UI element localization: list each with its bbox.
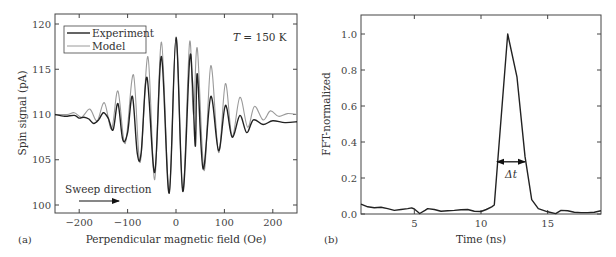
panel-label-b: (b) <box>324 234 338 245</box>
figure: 100105110115120 −200−1000100200 Experime… <box>0 0 616 257</box>
y-tick-label: 105 <box>32 154 51 165</box>
y-axis-label-a: Spin signal (pA) <box>16 70 28 155</box>
legend-label-experiment: Experiment <box>92 27 155 39</box>
plot-series-b <box>361 34 601 214</box>
temperature-value: = 150 K <box>240 31 287 43</box>
y-tick-label: 115 <box>32 64 51 75</box>
x-tick-label: 10 <box>475 218 488 229</box>
chart-panel-a: 100105110115120 −200−1000100200 Experime… <box>16 14 297 245</box>
delta-t-label: Δt <box>504 168 518 180</box>
x-tick-label: 5 <box>411 218 417 229</box>
series-fft <box>361 34 601 214</box>
series-model <box>55 37 297 194</box>
legend-label-model: Model <box>92 40 126 52</box>
y-axis-b: 0.00.20.40.60.81.0 <box>341 29 601 220</box>
panel-label-a: (a) <box>18 234 32 245</box>
y-tick-label: 0.4 <box>341 137 357 148</box>
sweep-direction-label: Sweep direction <box>65 183 152 195</box>
y-axis-label-b: FFT-normalized <box>320 72 332 156</box>
x-axis-b: 51015 <box>411 15 554 229</box>
x-tick-label: −200 <box>65 217 92 228</box>
plot-series-a <box>55 37 297 194</box>
x-axis-label-b: Time (ns) <box>456 233 506 245</box>
y-tick-label: 120 <box>32 19 51 30</box>
x-tick-label: 100 <box>215 217 234 228</box>
y-tick-label: 0.0 <box>341 209 357 220</box>
x-tick-label: −100 <box>114 217 141 228</box>
y-tick-label: 0.6 <box>341 101 357 112</box>
x-tick-label: 15 <box>541 218 554 229</box>
legend-a: Experiment Model <box>64 26 155 53</box>
x-tick-label: 0 <box>173 217 179 228</box>
chart-panel-b: 0.00.20.40.60.81.0 51015 Δt Time (ns) FF… <box>320 15 601 245</box>
plot-frame-b <box>361 15 601 214</box>
temperature-annotation: T = 150 K <box>233 31 287 43</box>
x-axis-label-a: Perpendicular magnetic field (Oe) <box>86 233 267 245</box>
x-tick-label: 200 <box>263 217 282 228</box>
y-tick-label: 110 <box>32 109 51 120</box>
y-tick-label: 100 <box>32 200 51 211</box>
y-tick-label: 0.2 <box>341 173 357 184</box>
y-tick-label: 0.8 <box>341 65 357 76</box>
y-tick-label: 1.0 <box>341 29 357 40</box>
